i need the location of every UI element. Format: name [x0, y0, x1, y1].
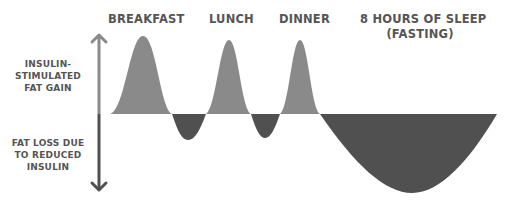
- breakfast-fat-gain-hump: [110, 36, 172, 114]
- dinner-label: DINNER: [279, 12, 330, 27]
- fat-loss-label-line2: TO REDUCED: [8, 149, 88, 161]
- fat-gain-label-line3: FAT GAIN: [8, 82, 88, 94]
- fat-loss-label-line3: INSULIN: [8, 161, 88, 173]
- sleep-label-line2: (FASTING): [360, 27, 480, 42]
- fat-loss-axis-label: FAT LOSS DUE TO REDUCED INSULIN: [8, 137, 88, 173]
- lunch-fat-gain-hump: [206, 40, 251, 114]
- fat-loss-label-line1: FAT LOSS DUE: [8, 137, 88, 149]
- lunch-label: LUNCH: [209, 12, 254, 27]
- breakfast-label: BREAKFAST: [108, 12, 185, 27]
- post-breakfast-fat-loss-trough: [172, 114, 206, 140]
- fat-gain-label-line2: STIMULATED: [8, 70, 88, 82]
- fat-gain-axis-label: INSULIN- STIMULATED FAT GAIN: [8, 58, 88, 94]
- fat-gain-label-line1: INSULIN-: [8, 58, 88, 70]
- dinner-fat-gain-hump: [280, 40, 320, 114]
- sleep-label-line1: 8 HOURS OF SLEEP: [360, 12, 480, 27]
- sleep-fasting-fat-loss-trough: [320, 114, 497, 193]
- sleep-label: 8 HOURS OF SLEEP (FASTING): [360, 12, 480, 42]
- post-lunch-fat-loss-trough: [251, 114, 280, 138]
